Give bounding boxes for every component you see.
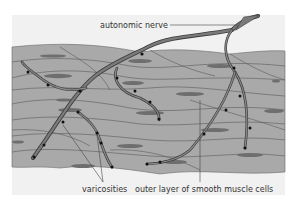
label-muscle-layer: outer layer of smooth muscle cells [135, 185, 273, 194]
label-varicosities: varicosities [82, 185, 127, 194]
smooth-muscle-diagram: autonomic nerve varicosities outer layer… [0, 0, 295, 201]
label-autonomic-nerve: autonomic nerve [100, 21, 168, 30]
